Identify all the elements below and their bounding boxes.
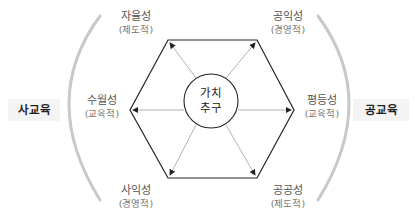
node-main: 사익성 [110, 184, 162, 198]
node-main: 공익성 [262, 10, 314, 24]
arrow-top-left [170, 43, 196, 78]
node-top-right: 공익성 (경영적) [262, 10, 314, 36]
right-sector-box: 공교육 [353, 99, 409, 121]
node-sub: (교육적) [76, 108, 128, 120]
node-sub: (제도적) [262, 198, 314, 210]
node-left: 수월성 (교육적) [76, 94, 128, 120]
arrow-bottom-left [170, 125, 196, 175]
node-sub: (경영적) [110, 198, 162, 210]
node-sub: (제도적) [110, 24, 162, 36]
center-label: 가치 추구 [186, 86, 236, 116]
node-top-left: 자율성 (제도적) [110, 10, 162, 36]
node-right: 평등성 (교육적) [296, 94, 348, 120]
arrow-top-right [226, 43, 255, 78]
node-main: 수월성 [76, 94, 128, 108]
left-sector-box: 사교육 [8, 99, 60, 121]
arrow-bottom-right [226, 125, 255, 175]
node-main: 공공성 [262, 184, 314, 198]
node-bottom-right: 공공성 (제도적) [262, 184, 314, 210]
center-line2: 추구 [186, 101, 236, 116]
node-main: 자율성 [110, 10, 162, 24]
node-sub: (경영적) [262, 24, 314, 36]
center-line1: 가치 [186, 86, 236, 101]
node-main: 평등성 [296, 94, 348, 108]
node-bottom-left: 사익성 (경영적) [110, 184, 162, 210]
node-sub: (교육적) [296, 108, 348, 120]
